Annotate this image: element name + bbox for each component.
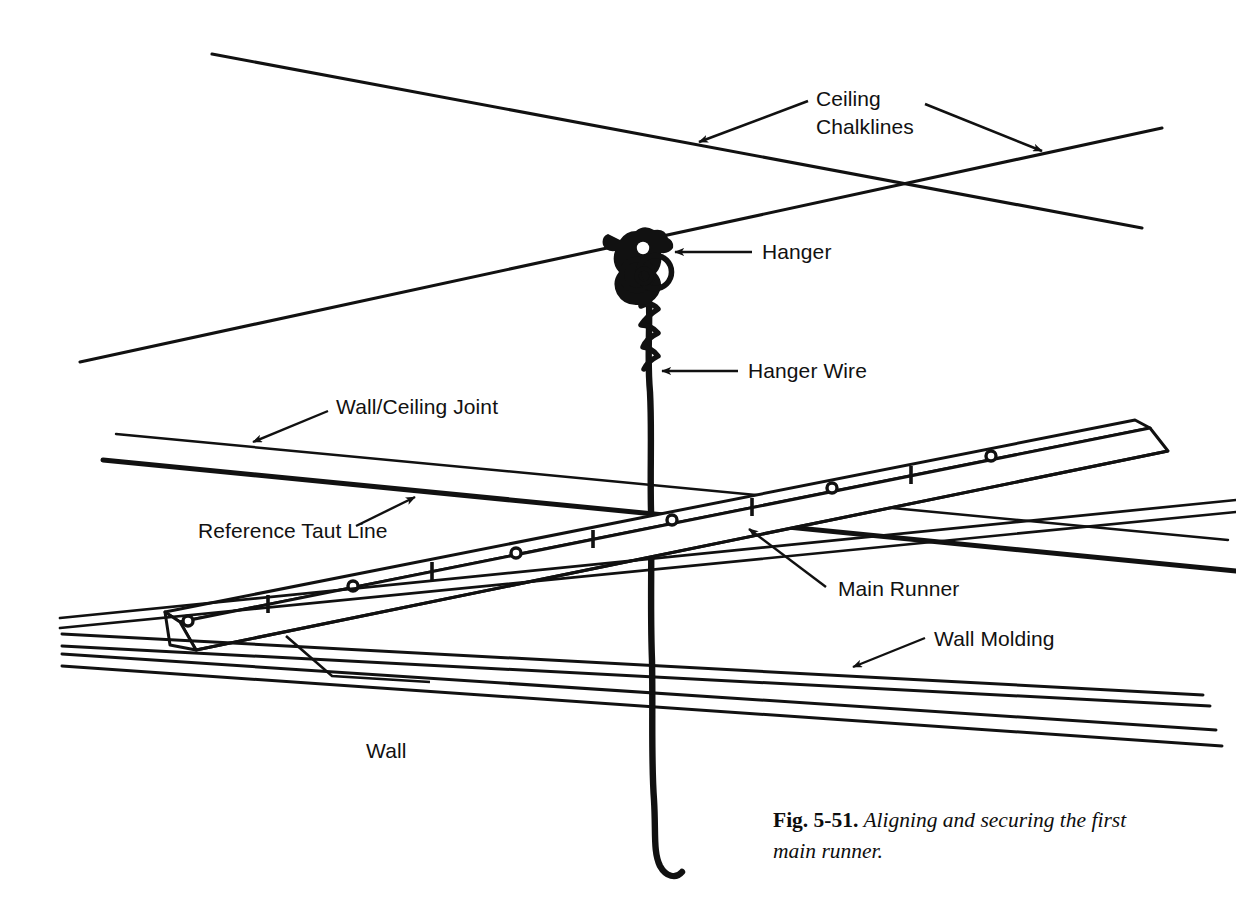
figure-page: Ceiling Chalklines Hanger Hanger Wire Wa… xyxy=(0,0,1236,921)
label-main-runner: Main Runner xyxy=(838,577,959,600)
figure-number: Fig. 5-51. xyxy=(773,808,858,832)
label-wall: Wall xyxy=(366,739,406,762)
runner-hole xyxy=(667,515,677,525)
label-reference-taut-line: Reference Taut Line xyxy=(198,519,387,542)
label-hanger: Hanger xyxy=(762,240,831,263)
label-hanger-wire: Hanger Wire xyxy=(748,359,867,382)
runner-hole xyxy=(183,616,193,626)
chalkline-descending xyxy=(212,54,1142,228)
wall-molding-leader xyxy=(853,638,925,667)
chalkline-leader-right xyxy=(925,104,1042,151)
ceiling-chalklines-group xyxy=(80,54,1162,362)
hanger-eye-hole xyxy=(637,242,649,254)
wall-molding-edge-bottom xyxy=(62,666,1222,746)
wall-molding-edge-upper-inner xyxy=(62,646,1210,706)
hanger-wire-twists xyxy=(641,304,658,369)
runner-hole xyxy=(986,451,996,461)
runner-hole xyxy=(511,548,521,558)
hanger-wire-group xyxy=(641,300,682,876)
label-wall-ceiling-joint: Wall/Ceiling Joint xyxy=(336,395,498,418)
figure-caption: Fig. 5-51. Aligning and securing the fir… xyxy=(773,805,1168,866)
wall-ceiling-joint-leader xyxy=(253,411,328,442)
runner-hole xyxy=(827,483,837,493)
label-wall-molding: Wall Molding xyxy=(934,627,1055,650)
chalkline-leader-left xyxy=(699,101,808,142)
hanger-group xyxy=(603,227,674,305)
technical-illustration: Ceiling Chalklines Hanger Hanger Wire Wa… xyxy=(0,0,1236,921)
label-ceiling-chalklines-line1: Ceiling xyxy=(816,87,881,110)
wall-molding-group xyxy=(62,634,1222,746)
label-ceiling-chalklines-line2: Chalklines xyxy=(816,115,914,138)
hanger-wire xyxy=(649,300,682,876)
